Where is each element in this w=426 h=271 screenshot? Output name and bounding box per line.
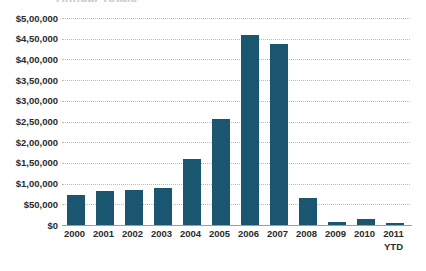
- chart-title-clipped: Annual Totals: [0, 0, 426, 9]
- x-axis: 2000200120022003200420052006200720082009…: [62, 228, 410, 270]
- y-axis-tick-label: $3,00,000: [0, 96, 58, 106]
- bar-slot: [323, 18, 352, 225]
- bar-slot: [352, 18, 381, 225]
- y-axis-tick-label: $0: [0, 221, 58, 231]
- bar[interactable]: [183, 159, 201, 225]
- y-axis-tick-label: $4,00,000: [0, 55, 58, 65]
- x-axis-tick-label: 2011 YTD: [377, 228, 410, 253]
- bar-slot: [265, 18, 294, 225]
- bar[interactable]: [241, 35, 259, 225]
- y-axis-tick-label: $2,50,000: [0, 117, 58, 127]
- bar-slot: [91, 18, 120, 225]
- y-axis-tick-label: $3,50,000: [0, 76, 58, 86]
- bar[interactable]: [125, 190, 143, 225]
- x-axis-baseline: [62, 225, 412, 226]
- y-axis: $0$50,000$1,00,000$1,50,000$2,00,000$2,5…: [0, 18, 58, 225]
- bar[interactable]: [270, 44, 288, 225]
- y-axis-tick-label: $1,50,000: [0, 158, 58, 168]
- bar[interactable]: [154, 188, 172, 225]
- y-axis-tick-label: $2,00,000: [0, 138, 58, 148]
- bar[interactable]: [212, 119, 230, 225]
- bar-slot: [381, 18, 410, 225]
- y-axis-tick-label: $4,50,000: [0, 34, 58, 44]
- bar[interactable]: [96, 191, 114, 225]
- bar[interactable]: [299, 198, 317, 225]
- y-axis-tick-label: $1,00,000: [0, 179, 58, 189]
- y-axis-tick-label: $5,00,000: [0, 14, 58, 24]
- bar-slot: [236, 18, 265, 225]
- bar-slot: [294, 18, 323, 225]
- plot-area: [62, 18, 410, 225]
- y-axis-tick-label: $50,000: [0, 200, 58, 210]
- bar-slot: [62, 18, 91, 225]
- bar[interactable]: [67, 195, 85, 225]
- bar-slot: [120, 18, 149, 225]
- chart-title-text: Annual Totals: [56, 0, 137, 5]
- bar-slot: [178, 18, 207, 225]
- bar-slot: [149, 18, 178, 225]
- bar-chart: Annual Totals $0$50,000$1,00,000$1,50,00…: [0, 0, 426, 271]
- bar-slot: [207, 18, 236, 225]
